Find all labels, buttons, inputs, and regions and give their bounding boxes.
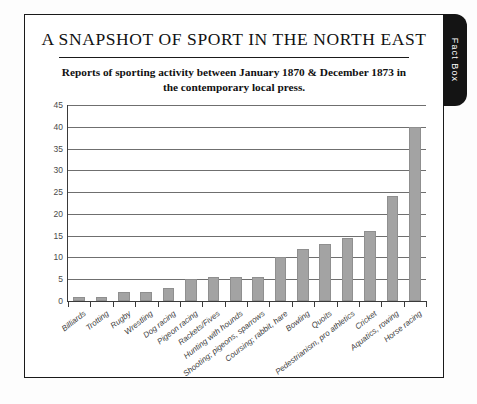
bar [342, 238, 354, 301]
bar [387, 196, 399, 301]
x-tick [202, 301, 203, 307]
fact-box-tab: Fact Box [443, 14, 467, 106]
x-tick [113, 301, 114, 307]
bar [96, 297, 108, 301]
bar-series [68, 105, 426, 301]
x-tick [404, 301, 405, 307]
bar [140, 292, 152, 301]
x-tick [225, 301, 226, 307]
bar [208, 277, 220, 301]
bar [319, 244, 331, 301]
y-tick-label-20: 20 [39, 209, 63, 219]
page-title: A SNAPSHOT OF SPORT IN THE NORTH EAST [25, 29, 443, 50]
x-tick [90, 301, 91, 307]
y-tick-label-0: 0 [39, 296, 63, 306]
x-tick [135, 301, 136, 307]
bar [364, 231, 376, 301]
bar [185, 279, 197, 301]
plot-area [67, 105, 426, 302]
y-tick-label-10: 10 [39, 252, 63, 262]
bar [409, 127, 421, 301]
y-tick-label-25: 25 [39, 187, 63, 197]
x-tick [426, 301, 427, 307]
bar [275, 257, 287, 301]
x-tick [180, 301, 181, 307]
x-tick [359, 301, 360, 307]
x-tick [292, 301, 293, 307]
y-tick-label-45: 45 [39, 100, 63, 110]
x-tick [269, 301, 270, 307]
bar [163, 288, 175, 301]
fact-box-tab-label: Fact Box [450, 38, 460, 82]
y-axis-labels: 051015202530354045 [39, 105, 63, 301]
bar-chart: 051015202530354045 BilliardsTrottingRugb… [39, 101, 431, 369]
fact-box-frame: A SNAPSHOT OF SPORT IN THE NORTH EAST Re… [24, 14, 444, 378]
y-tick-label-40: 40 [39, 122, 63, 132]
title-divider [59, 57, 409, 58]
y-tick-label-15: 15 [39, 231, 63, 241]
bar [230, 277, 242, 301]
x-tick [381, 301, 382, 307]
x-tick [314, 301, 315, 307]
x-tick [337, 301, 338, 307]
x-tick [158, 301, 159, 307]
bar [297, 249, 309, 301]
bar [73, 297, 85, 301]
bar [252, 277, 264, 301]
y-tick-label-35: 35 [39, 144, 63, 154]
x-tick-label: Trotting [84, 309, 110, 332]
y-tick-label-30: 30 [39, 165, 63, 175]
fact-box-page: A SNAPSHOT OF SPORT IN THE NORTH EAST Re… [0, 0, 477, 404]
x-tick-label: Billiards [60, 309, 88, 333]
x-tick [247, 301, 248, 307]
x-tick-label: Bowling [284, 309, 312, 333]
y-tick-label-5: 5 [39, 274, 63, 284]
x-tick [68, 301, 69, 307]
chart-subtitle: Reports of sporting activity between Jan… [53, 65, 415, 95]
bar [118, 292, 130, 301]
